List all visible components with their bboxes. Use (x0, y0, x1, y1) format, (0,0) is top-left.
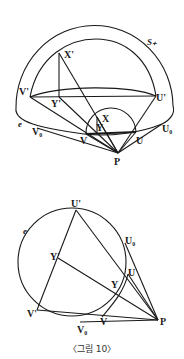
label-V-prime: V' (19, 86, 29, 97)
figure-caption: 〈그림 10〉 (68, 343, 116, 354)
label-Y-prime-b: Y' (50, 251, 60, 262)
label-V-prime-b: V' (27, 308, 37, 319)
chord-VpUp (30, 96, 156, 97)
line-V0-P (80, 320, 158, 322)
label-e: e (18, 119, 22, 129)
label-P-b: P (160, 316, 166, 327)
figure-10: S₊ X' V' Y' U' e V₀ V X Y U U₀ P U' e U₀… (0, 0, 184, 359)
line-Yp-P (59, 97, 118, 153)
label-P: P (114, 156, 120, 167)
label-U-b: U (128, 267, 135, 278)
line-V-P (86, 134, 118, 153)
label-V-b: V (100, 316, 108, 327)
label-U-prime-b: U' (71, 198, 81, 209)
line-Yp-P (58, 258, 158, 320)
label-V0: V₀ (32, 126, 42, 137)
label-Y-prime: Y' (51, 98, 61, 109)
label-U-prime: U' (156, 92, 166, 103)
top-diagram: S₊ X' V' Y' U' e V₀ V X Y U U₀ P (16, 26, 174, 167)
label-V0-b: V₀ (77, 324, 87, 335)
label-Y-b: Y (111, 279, 119, 290)
label-e-b: e (23, 226, 27, 236)
label-V: V (80, 135, 88, 146)
bottom-diagram: U' e U₀ Y' U Y V' V V₀ P (18, 198, 166, 335)
line-U-P (128, 274, 158, 320)
line-Vp-P (37, 310, 158, 320)
label-U0-b: U₀ (125, 235, 135, 246)
label-U: U (136, 135, 143, 146)
label-Y: Y (96, 122, 104, 133)
line-Up-P (76, 210, 158, 320)
label-U0: U₀ (162, 123, 172, 134)
label-S-plus: S₊ (147, 37, 157, 47)
chord-VU (86, 132, 136, 134)
circle-e (18, 208, 126, 316)
label-X-prime: X' (64, 49, 74, 60)
